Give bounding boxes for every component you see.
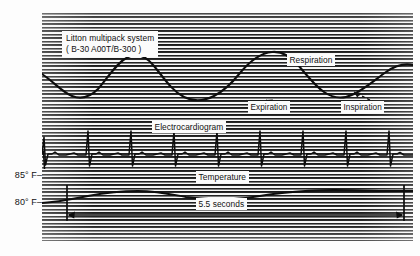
duration-label: 5.5 seconds: [196, 198, 247, 210]
system-title-line-2: ( B-30 A00T/B-300 ): [66, 44, 154, 55]
temperature-axis-low-label: 80° F–: [2, 197, 42, 207]
electrocardiogram-label: Electrocardiogram: [152, 121, 226, 133]
temperature-axis-high-label: 85° F–: [2, 170, 42, 180]
respiration-label: Respiration: [287, 54, 335, 66]
figure-canvas: Litton multipack system ( B-30 A00T/B-30…: [0, 0, 420, 256]
temperature-label: Temperature: [196, 171, 249, 183]
system-title-line-1: Litton multipack system: [66, 33, 154, 44]
expiration-label: Expiration: [248, 101, 290, 113]
system-title: Litton multipack system ( B-30 A00T/B-30…: [62, 31, 158, 57]
inspiration-label: Inspiration: [341, 101, 384, 113]
